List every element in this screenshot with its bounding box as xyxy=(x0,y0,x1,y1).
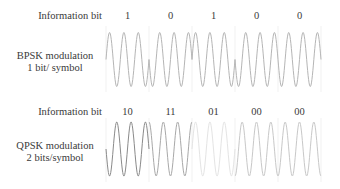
bpsk-wave-segment-0 xyxy=(106,33,149,87)
qpsk-wave-segment-2 xyxy=(192,122,235,176)
bpsk-wave-segment-3 xyxy=(235,33,278,87)
modulation-waveforms xyxy=(0,0,340,189)
bpsk-wave-segment-2 xyxy=(192,33,235,87)
bpsk-wave-segment-4 xyxy=(278,33,321,87)
qpsk-wave-segment-3 xyxy=(235,122,278,176)
qpsk-wave-segment-4 xyxy=(278,122,321,176)
qpsk-wave-segment-0 xyxy=(106,122,149,176)
bpsk-wave-segment-1 xyxy=(149,33,192,87)
qpsk-wave-segment-1 xyxy=(149,122,192,176)
